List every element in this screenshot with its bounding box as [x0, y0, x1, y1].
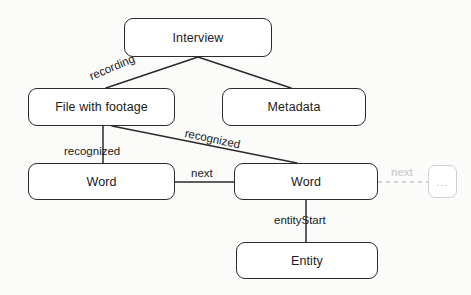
node-entity-label: Entity [291, 254, 323, 268]
node-more-ellipsis-label: ... [436, 176, 448, 188]
edge-label-recognized-vertical: recognized [64, 146, 120, 158]
edge-label-next: next [191, 168, 213, 180]
edge-label-next-ghost: next [391, 167, 413, 179]
node-file-with-footage-label: File with footage [55, 100, 148, 114]
edge-label-entity-start: entityStart [274, 215, 326, 227]
node-entity[interactable]: Entity [236, 242, 378, 279]
node-metadata[interactable]: Metadata [222, 88, 366, 126]
node-word-left-label: Word [86, 175, 116, 189]
diagram-canvas: Interview File with footage Metadata Wor… [0, 0, 471, 295]
node-interview-label: Interview [173, 31, 224, 45]
node-metadata-label: Metadata [268, 100, 321, 114]
edge-interview-metadata [198, 57, 291, 88]
node-more-ellipsis[interactable]: ... [428, 165, 457, 198]
node-interview[interactable]: Interview [124, 18, 272, 57]
node-word-right[interactable]: Word [234, 163, 378, 200]
node-word-left[interactable]: Word [28, 163, 175, 200]
node-word-right-label: Word [291, 175, 321, 189]
node-file-with-footage[interactable]: File with footage [28, 88, 175, 126]
